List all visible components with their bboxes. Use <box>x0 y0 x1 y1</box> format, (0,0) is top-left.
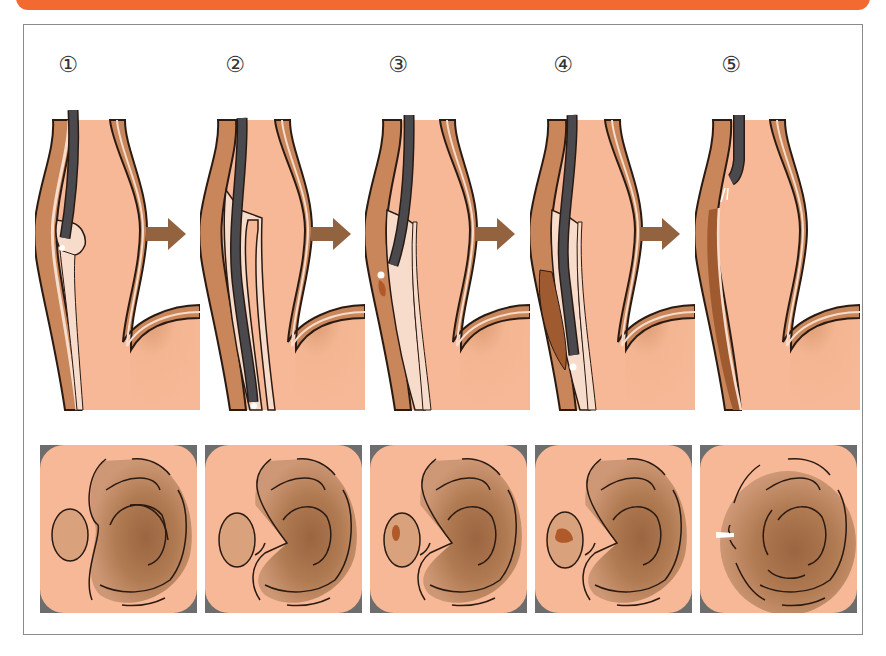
endoscopic-view-step-4 <box>535 445 692 613</box>
step-number-3: ③ <box>385 52 411 78</box>
side-view-step-1 <box>35 110 200 415</box>
endoscopic-view-step-2 <box>205 445 362 613</box>
arrow-icon <box>640 218 680 250</box>
step-number-5: ⑤ <box>718 52 744 78</box>
endoscopic-view-step-1 <box>40 445 197 613</box>
side-view-step-5 <box>695 110 860 415</box>
step-number-4: ④ <box>550 52 576 78</box>
step-number-1: ① <box>55 52 81 78</box>
arrow-icon <box>475 218 515 250</box>
endoscopic-view-step-3 <box>370 445 527 613</box>
header-banner <box>16 0 870 10</box>
arrow-icon <box>311 218 351 250</box>
step-number-2: ② <box>222 52 248 78</box>
endoscopic-view-step-5 <box>700 445 857 613</box>
side-view-step-4 <box>530 110 695 415</box>
side-view-step-3 <box>365 110 530 415</box>
arrow-icon <box>146 218 186 250</box>
side-view-step-2 <box>200 110 365 415</box>
